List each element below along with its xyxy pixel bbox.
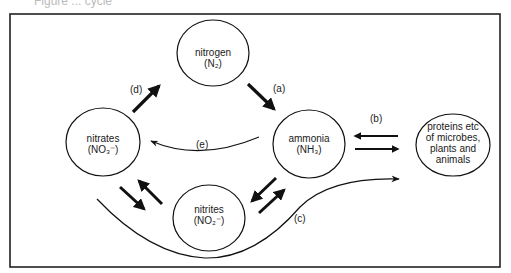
- node-ammonia-name: ammonia: [288, 133, 330, 144]
- edge-c-arrow: (c): [97, 179, 399, 258]
- nitrates-nitrites-arrows: [120, 181, 162, 209]
- node-proteins-line2: of microbes,: [426, 132, 480, 143]
- edge-b-arrows: (b): [355, 113, 398, 149]
- node-ammonia: ammonia (NH₃): [273, 110, 345, 178]
- node-nitrogen-name: nitrogen: [195, 47, 231, 58]
- node-nitrites-name: nitrites: [194, 204, 223, 215]
- edge-a-arrow: (a): [248, 83, 285, 109]
- node-nitrogen-formula: (N₂): [204, 58, 222, 69]
- node-nitrates-formula: (NO₃⁻): [88, 144, 119, 155]
- node-nitrites-formula: (NO₂⁻): [194, 215, 225, 226]
- node-proteins-line4: animals: [436, 154, 470, 165]
- edge-d-label: (d): [130, 84, 142, 95]
- node-proteins: proteins etc of microbes, plants and ani…: [416, 114, 490, 176]
- nitrogen-cycle-diagram: nitrogen (N₂) ammonia (NH₃) nitrates (NO…: [0, 0, 511, 273]
- node-nitrites: nitrites (NO₂⁻): [173, 185, 245, 251]
- node-proteins-line3: plants and: [430, 143, 476, 154]
- node-ammonia-formula: (NH₃): [296, 144, 321, 155]
- edge-a-label: (a): [273, 83, 285, 94]
- node-proteins-line1: proteins etc: [427, 121, 479, 132]
- edge-e-arrow: (e): [151, 137, 259, 151]
- nitrites-ammonia-arrows: [252, 178, 284, 213]
- node-nitrogen: nitrogen (N₂): [177, 20, 249, 86]
- node-nitrates: nitrates (NO₃⁻): [66, 108, 140, 176]
- node-nitrates-name: nitrates: [87, 133, 120, 144]
- edge-c-label: (c): [294, 213, 306, 224]
- edge-e-label: (e): [196, 139, 208, 150]
- edge-b-label: (b): [370, 113, 382, 124]
- edge-d-arrow: (d): [130, 84, 159, 112]
